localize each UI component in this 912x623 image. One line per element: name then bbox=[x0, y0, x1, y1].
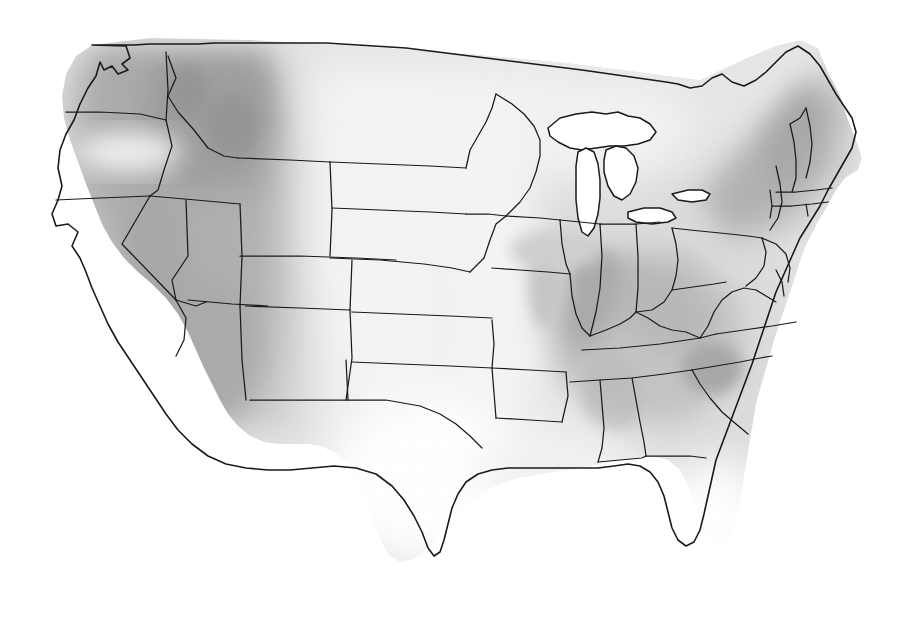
us-contour-map-figure bbox=[0, 0, 912, 623]
contour-shading-field bbox=[55, 38, 862, 576]
map-canvas bbox=[0, 0, 912, 623]
lake-erie bbox=[628, 208, 676, 224]
